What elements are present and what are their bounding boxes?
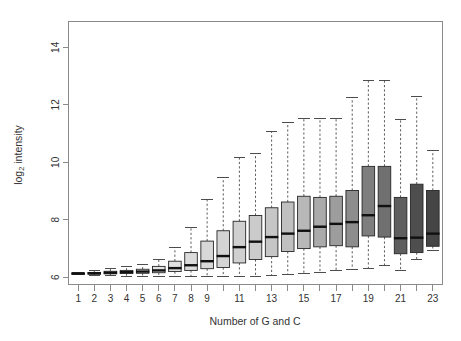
x-axis-tick-label: 6	[156, 293, 162, 304]
boxplot-box	[249, 154, 262, 277]
boxplot-box	[297, 119, 310, 274]
x-axis-tick-label: 21	[395, 293, 407, 304]
boxplot-box	[265, 132, 278, 276]
box-iqr	[265, 208, 278, 257]
box-iqr	[394, 197, 407, 253]
x-axis-tick-label: 4	[124, 293, 130, 304]
boxplot-box	[71, 272, 84, 274]
boxplot-box	[378, 81, 391, 266]
x-axis-tick-label: 3	[108, 293, 114, 304]
y-axis-ticks: 68101214	[50, 41, 68, 280]
box-iqr	[298, 196, 311, 248]
x-axis-tick-label: 11	[234, 293, 245, 304]
x-axis-title: Number of G and C	[209, 315, 300, 327]
box-iqr	[281, 202, 294, 251]
boxplot-box	[152, 259, 165, 276]
box-iqr	[314, 197, 327, 246]
x-axis-ticks: 12345678911131517192123	[75, 285, 438, 304]
boxplot-box	[426, 150, 439, 251]
x-axis-tick-label: 19	[363, 293, 375, 304]
x-axis-tick-label: 17	[331, 293, 343, 304]
box-iqr	[185, 253, 198, 271]
box-iqr	[362, 166, 375, 236]
boxplot-box	[120, 267, 133, 276]
box-iqr	[330, 196, 343, 245]
box-iqr	[169, 261, 182, 271]
x-axis-tick-label: 8	[188, 293, 194, 304]
boxplot-box	[104, 269, 117, 276]
x-axis-tick-label: 23	[427, 293, 439, 304]
boxplot-box	[313, 119, 326, 272]
boxplot-box	[168, 247, 181, 277]
boxplot-box	[200, 200, 213, 277]
boxplot-box	[88, 271, 101, 275]
x-axis-tick-label: 1	[75, 293, 81, 304]
x-axis-tick-label: 15	[298, 293, 310, 304]
box-iqr	[201, 241, 214, 269]
y-axis-tick-label: 12	[50, 99, 61, 111]
box-iqr	[249, 216, 262, 260]
y-axis-title: log2 intensity	[12, 124, 26, 184]
boxplot-box	[410, 96, 423, 259]
y-axis-title-base: log	[12, 171, 24, 185]
boxplot-box	[346, 97, 359, 269]
box-iqr	[217, 231, 230, 268]
boxplot-box	[217, 177, 230, 276]
x-axis-tick-label: 9	[204, 293, 210, 304]
boxplot-figure: 68101214 12345678911131517192123 Number …	[0, 0, 461, 341]
boxplot-box	[394, 119, 407, 270]
y-axis-tick-label: 8	[50, 217, 61, 223]
y-axis-tick-label: 10	[50, 156, 61, 168]
boxplot-canvas: 68101214 12345678911131517192123 Number …	[0, 0, 461, 341]
boxplot-box	[281, 123, 294, 275]
box-iqr	[346, 191, 359, 247]
x-axis-tick-label: 7	[172, 293, 178, 304]
box-iqr	[427, 191, 440, 247]
x-axis-tick-label: 13	[266, 293, 278, 304]
box-iqr	[378, 166, 391, 237]
x-axis-tick-label: 5	[140, 293, 146, 304]
boxplot-box	[136, 265, 149, 277]
boxplot-box	[233, 158, 246, 277]
boxplot-box	[329, 119, 342, 271]
y-axis-tick-label: 6	[50, 274, 61, 280]
boxplot-box	[184, 227, 197, 277]
box-series	[71, 81, 439, 277]
y-axis-tick-label: 14	[50, 41, 61, 53]
box-iqr	[233, 221, 246, 263]
boxplot-box	[362, 81, 375, 268]
x-axis-tick-label: 2	[92, 293, 98, 304]
y-axis-title-rest: intensity	[12, 124, 24, 166]
box-iqr	[410, 184, 423, 252]
